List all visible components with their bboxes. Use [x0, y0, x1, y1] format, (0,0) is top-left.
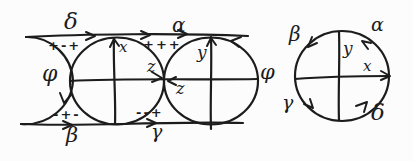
- y-axis-label: y: [342, 38, 353, 58]
- alpha-ccw-arrow: [362, 41, 371, 49]
- hand-drawn-diagram: δ α φ φ β γ +-+ +++ -+- --+ x y z z: [0, 0, 413, 161]
- delta-edge-label: δ: [64, 8, 78, 34]
- right-figure: β α γ δ y x: [282, 13, 390, 125]
- right-circle-vertical-axis: [211, 37, 212, 129]
- phi-right-label: φ: [260, 60, 275, 84]
- alpha-edge-label: α: [172, 13, 186, 37]
- phi-left-label: φ: [42, 61, 58, 86]
- y-point-label: y: [196, 42, 207, 62]
- x-axis-label: x: [363, 57, 372, 75]
- left-circle-vertical-axis: [114, 38, 115, 124]
- delta-label: δ: [371, 99, 385, 125]
- circle-horizontal-axis: [295, 76, 389, 79]
- z-upper-label: z: [146, 57, 156, 76]
- sign-top-left: +-+: [48, 38, 81, 53]
- z-lower-label: z: [175, 79, 185, 98]
- x-point-label: x: [119, 38, 128, 56]
- sign-top-middle: +++: [143, 37, 182, 52]
- top-line-arrow-1: [86, 32, 95, 40]
- sign-bottom-left: -+-: [53, 107, 81, 122]
- gamma-label: γ: [282, 91, 294, 113]
- beta-edge-label: β: [65, 123, 78, 147]
- left-figure: δ α φ φ β γ +-+ +++ -+- --+ x y z z: [21, 8, 275, 147]
- sign-bottom-middle: --+: [136, 105, 164, 120]
- delta-ccw-arrow: [356, 102, 367, 112]
- gamma-edge-label: γ: [151, 120, 163, 142]
- alpha-label: α: [371, 13, 384, 35]
- beta-label: β: [288, 22, 301, 46]
- diagram-svg: δ α φ φ β γ +-+ +++ -+- --+ x y z z: [0, 0, 413, 161]
